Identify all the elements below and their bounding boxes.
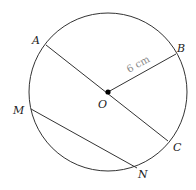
radius-measurement: 6 cm xyxy=(125,53,152,75)
label-O: O xyxy=(98,98,107,111)
center-dot xyxy=(105,89,110,94)
label-N: N xyxy=(137,168,148,181)
label-B: B xyxy=(176,42,185,55)
circle-diagram: A B O C M N 6 cm xyxy=(0,0,196,190)
chord-MN xyxy=(31,109,137,168)
label-A: A xyxy=(31,34,40,47)
label-C: C xyxy=(173,141,182,154)
diagram-canvas: A B O C M N 6 cm xyxy=(0,0,196,190)
label-M: M xyxy=(12,104,25,117)
